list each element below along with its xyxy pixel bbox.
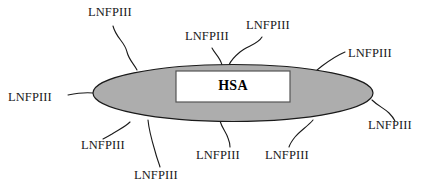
conjugate-label-lnfpiii-bottom-low: LNFPIII: [134, 169, 178, 182]
hsa-core-label: HSA: [176, 78, 290, 94]
conjugate-label-lnfpiii-top-center-left: LNFPIII: [185, 30, 229, 43]
conjugate-label-lnfpiii-right: LNFPIII: [368, 119, 412, 132]
conjugate-label-lnfpiii-top-center-right: LNFPIII: [246, 19, 290, 32]
tentacle-lnfpiii-left: [68, 93, 93, 95]
conjugate-label-lnfpiii-bottom-center: LNFPIII: [196, 149, 240, 162]
figure-root: HSA LNFPIIILNFPIIILNFPIIILNFPIIILNFPIIIL…: [0, 0, 430, 188]
tentacle-lnfpiii-bottom-center: [220, 121, 230, 147]
tentacle-lnfpiii-top-center-left: [212, 48, 222, 65]
conjugate-label-lnfpiii-bottom-left: LNFPIII: [81, 139, 125, 152]
conjugate-label-lnfpiii-top-right: LNFPIII: [348, 47, 392, 60]
tentacle-lnfpiii-top-center-right: [229, 37, 262, 65]
tentacle-lnfpiii-bottom-right: [289, 120, 313, 147]
conjugate-label-lnfpiii-bottom-right: LNFPIII: [265, 149, 309, 162]
conjugate-label-lnfpiii-left: LNFPIII: [8, 91, 52, 104]
tentacle-lnfpiii-top-left: [113, 26, 137, 70]
tentacle-lnfpiii-bottom-left: [103, 122, 130, 139]
tentacle-lnfpiii-bottom-low: [148, 120, 160, 167]
conjugate-label-lnfpiii-top-left: LNFPIII: [88, 6, 132, 19]
